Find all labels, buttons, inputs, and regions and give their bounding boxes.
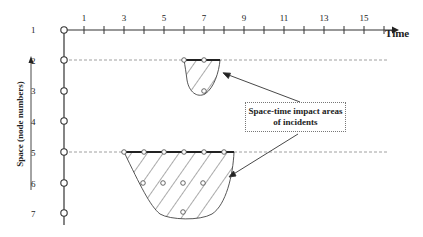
node-label-2: 2 <box>31 56 36 66</box>
node-label-6: 6 <box>31 179 36 189</box>
tick-label-9: 9 <box>242 13 247 23</box>
arrow-to-upper-area-icon <box>223 73 231 79</box>
tick-label-13: 13 <box>320 13 329 23</box>
node-label-4: 4 <box>31 117 36 127</box>
space-time-diagram <box>0 0 423 237</box>
node-2 <box>61 57 67 63</box>
incident-area-node-5 <box>122 150 234 219</box>
node-7 <box>61 210 67 216</box>
tick-label-5: 5 <box>162 13 167 23</box>
tick-label-7: 7 <box>202 13 207 23</box>
space-axis <box>61 27 67 225</box>
node-label-1: 1 <box>31 25 36 35</box>
node-6 <box>61 180 67 186</box>
tick-label-15: 15 <box>360 13 369 23</box>
node-label-7: 7 <box>31 209 36 219</box>
time-axis <box>64 26 399 34</box>
incident-area-node-2 <box>182 58 220 96</box>
node-label-5: 5 <box>31 148 36 158</box>
tick-label-11: 11 <box>280 13 289 23</box>
tick-label-1: 1 <box>82 13 87 23</box>
node-5 <box>61 149 67 155</box>
callout-line-1: Space-time impact areas <box>246 106 345 117</box>
node-label-3: 3 <box>31 86 36 96</box>
callout-box: Space-time impact areas of incidents <box>245 102 346 132</box>
tick-label-3: 3 <box>122 13 127 23</box>
node-1 <box>61 27 67 33</box>
node-4 <box>61 118 67 124</box>
node-3 <box>61 88 67 94</box>
time-axis-label: Time <box>385 27 409 39</box>
callout-line-2: of incidents <box>246 117 345 128</box>
space-axis-label: Space (node numbers) <box>15 81 25 167</box>
